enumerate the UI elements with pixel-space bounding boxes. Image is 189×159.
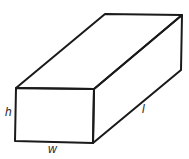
front-face xyxy=(15,88,94,143)
height-label: h xyxy=(5,105,12,119)
width-label: w xyxy=(48,142,58,156)
side-face xyxy=(93,15,182,143)
top-face xyxy=(16,14,182,89)
box-diagram: h w l xyxy=(0,0,189,159)
length-label: l xyxy=(142,102,145,116)
